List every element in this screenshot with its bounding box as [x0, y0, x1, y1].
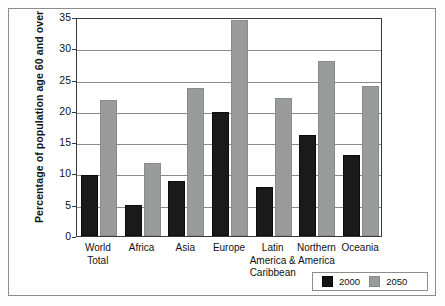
y-axis-tick-mark: [72, 237, 76, 238]
y-axis-tick-label: 5: [47, 199, 71, 211]
legend-swatch-icon: [322, 276, 333, 287]
x-axis-label-line: Oceania: [324, 242, 396, 255]
plot-area: [76, 18, 382, 237]
bar-2050-latin-america-caribbean[interactable]: [275, 98, 292, 236]
x-axis-label-line: Total: [62, 255, 134, 268]
bar-2000-world-total[interactable]: [81, 175, 98, 236]
bar-group: [343, 19, 379, 236]
y-axis-tick-label: 20: [47, 105, 71, 117]
legend-label: 2000: [339, 276, 360, 287]
bar-2050-oceania[interactable]: [362, 86, 379, 236]
legend-swatch-icon: [369, 276, 380, 287]
x-axis-category-label: Oceania: [324, 242, 396, 255]
chart-legend: 20002050: [312, 272, 428, 291]
y-axis-tick-label: 30: [47, 42, 71, 54]
bar-2000-asia[interactable]: [168, 181, 185, 236]
y-axis-title: Percentage of population age 60 and over: [33, 13, 45, 223]
y-axis-tick-label: 15: [47, 136, 71, 148]
legend-item-2050[interactable]: 2050: [369, 276, 407, 287]
bar-group: [81, 19, 117, 236]
bar-2050-world-total[interactable]: [100, 100, 117, 236]
legend-item-2000[interactable]: 2000: [322, 276, 360, 287]
bar-2000-oceania[interactable]: [343, 155, 360, 236]
bar-group: [168, 19, 204, 236]
bar-2000-northern-america[interactable]: [299, 135, 316, 236]
bar-2050-europe[interactable]: [231, 20, 248, 236]
bar-2000-europe[interactable]: [212, 112, 229, 236]
chart-figure: Percentage of population age 60 and over…: [0, 0, 445, 306]
bar-group: [212, 19, 248, 236]
bar-2050-asia[interactable]: [187, 88, 204, 236]
bar-2000-africa[interactable]: [125, 205, 142, 236]
y-axis-tick-label: 35: [47, 11, 71, 23]
bar-group: [125, 19, 161, 236]
bar-2000-latin-america-caribbean[interactable]: [256, 187, 273, 236]
bar-2050-africa[interactable]: [144, 163, 161, 236]
x-axis-label-line: America: [280, 255, 352, 268]
bar-2050-northern-america[interactable]: [318, 61, 335, 236]
legend-label: 2050: [386, 276, 407, 287]
bar-group: [299, 19, 335, 236]
y-axis-tick-label: 10: [47, 167, 71, 179]
y-axis-tick-label: 0: [47, 230, 71, 242]
y-axis-tick-label: 25: [47, 74, 71, 86]
x-axis-label-line: Caribbean: [237, 267, 309, 280]
bar-group: [256, 19, 292, 236]
